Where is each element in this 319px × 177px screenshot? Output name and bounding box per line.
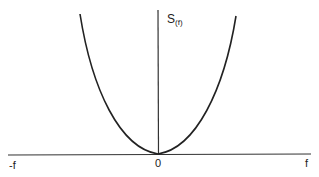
x-pos-label: f — [305, 158, 308, 169]
y-axis-label: S(f) — [167, 13, 183, 27]
y-axis-label-sub: (f) — [175, 18, 183, 27]
spectrum-diagram — [0, 0, 319, 177]
origin-label: 0 — [155, 158, 161, 169]
y-axis — [158, 10, 159, 155]
x-neg-label: -f — [9, 160, 16, 171]
y-axis-label-main: S — [167, 12, 175, 26]
